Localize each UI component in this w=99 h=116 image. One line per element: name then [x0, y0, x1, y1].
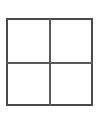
grid-figure [6, 18, 93, 106]
grid-cell-bottom-right[interactable] [51, 64, 91, 104]
grid-cell-bottom-right-label [51, 64, 91, 104]
grid-cell-bottom-left-label [8, 64, 49, 104]
grid-cell-top-right[interactable] [51, 20, 91, 62]
grid-cell-top-left[interactable] [8, 20, 49, 62]
grid-cell-top-right-label [51, 20, 91, 62]
grid-cell-top-left-label [8, 20, 49, 62]
grid-cell-bottom-left[interactable] [8, 64, 49, 104]
